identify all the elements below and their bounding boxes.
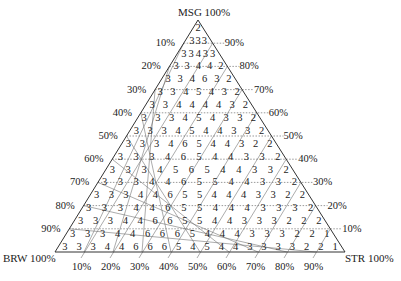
cell-value: 4 [211,138,217,149]
ternary-diagram: 2333334333344233463233454323344443233345… [0,0,401,281]
cell-value: 4 [235,228,241,239]
bottom-tick-label: 90% [304,261,324,272]
cell-value: 4 [189,99,195,110]
cell-value: 3 [276,241,281,252]
cell-value: 4 [228,176,234,187]
cell-value: 3 [210,48,215,59]
cell-value: 3 [165,73,170,84]
cell-value: 6 [181,151,186,162]
cell-value: 3 [276,202,281,213]
cell-value: 3 [260,176,265,187]
cell-value: 3 [93,215,98,226]
cell-value: 3 [76,241,81,252]
ternary-plot: 2333334333344233463233454323344443233345… [0,0,401,281]
cell-value: 4 [119,241,125,252]
cell-value: 2 [218,60,223,71]
cell-value: 3 [118,176,123,187]
cell-value: 4 [190,73,196,84]
cell-value: 6 [133,241,138,252]
left-axis-ticks: 10%20%30%40%50%60%70%80%90% [41,37,175,234]
cell-value: 5 [176,241,181,252]
cell-value: 4 [176,99,182,110]
cell-value: 4 [138,189,144,200]
cell-value: 2 [243,99,248,110]
cell-value: 3 [86,202,91,213]
cell-value: 3 [126,164,131,175]
cell-value: 4 [175,125,181,136]
cell-value: 3 [276,176,281,187]
cell-value: 4 [130,228,136,239]
cell-value: 6 [175,228,180,239]
cell-value: 3 [229,99,234,110]
cell-value: 4 [212,215,218,226]
cell-value: 3 [242,215,247,226]
cell-value: 2 [318,241,323,252]
cell-value: 4 [220,228,226,239]
vertex-label-brw: BRW 100% [3,252,56,264]
cell-value: 5 [190,228,195,239]
cell-value: 5 [181,202,186,213]
cell-value: 4 [241,189,247,200]
cell-value: 3 [202,35,207,46]
cell-value: 4 [219,241,225,252]
right-tick-label: 50% [284,130,304,141]
cell-value: 1 [333,241,338,252]
cell-value: 3 [245,125,250,136]
cell-value: 3 [260,202,265,213]
cell-value: 4 [165,151,171,162]
cell-value: 3 [150,99,155,110]
bottom-tick-label: 40% [159,261,179,272]
cell-value: 2 [195,22,200,33]
cell-value: 4 [229,202,235,213]
cell-value: 3 [149,151,154,162]
cell-value: 4 [149,202,155,213]
cell-value: 4 [165,176,171,187]
cell-value: 3 [178,73,183,84]
cell-value: 6 [182,138,187,149]
cell-value: 2 [267,138,272,149]
cell-value: 3 [237,112,242,123]
cell-value: 3 [141,164,146,175]
cell-value: 2 [304,241,309,252]
cell-value: 3 [157,86,162,97]
left-tick-label: 60% [84,153,104,164]
left-tick-label: 80% [56,200,76,211]
cell-value: 2 [300,189,305,200]
cell-value: 5 [197,215,202,226]
cell-value: 3 [134,125,139,136]
cell-value: 6 [148,241,153,252]
cell-value: 2 [301,215,306,226]
cell-value: 3 [118,202,123,213]
cell-value: 5 [205,164,210,175]
cell-value: 3 [78,215,83,226]
cell-value: 3 [155,112,160,123]
cell-value: 6 [145,228,150,239]
cell-value: 4 [115,228,121,239]
cell-value: 4 [196,48,202,59]
left-tick-label: 90% [41,223,61,234]
cell-value: 2 [284,164,289,175]
cell-value: 4 [212,151,218,162]
cell-value: 3 [203,48,208,59]
cell-value: 4 [228,151,234,162]
cell-value: 3 [163,99,168,110]
cell-value: 4 [217,125,223,136]
cell-value: 4 [216,99,222,110]
left-tick-label: 40% [113,107,133,118]
cell-value: 4 [196,60,202,71]
cell-value: 3 [110,164,115,175]
cell-value: 3 [154,138,159,149]
left-tick-label: 30% [127,84,147,95]
bottom-axis-ticks: 10%20%30%40%50%60%70%80%90% [72,261,324,272]
left-tick-label: 50% [99,130,119,141]
cell-value: 3 [261,241,266,252]
cell-value: 6 [160,228,165,239]
cell-value: 3 [142,112,147,123]
left-tick-label: 70% [70,176,90,187]
cell-value: 3 [272,215,277,226]
right-tick-label: 90% [225,37,245,48]
cell-value: 4 [183,86,189,97]
cell-value: 6 [202,73,207,84]
right-tick-label: 20% [328,200,348,211]
bottom-tick-label: 60% [217,261,237,272]
